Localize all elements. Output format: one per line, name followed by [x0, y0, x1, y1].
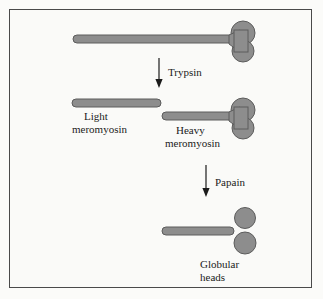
- papain-label: Papain: [215, 176, 245, 188]
- globular-head-lower: [234, 232, 256, 254]
- globular-heads-label-line1: Globular: [200, 258, 239, 270]
- heavy-meromyosin-subfragment-2-rod: [162, 227, 234, 235]
- heavy-meromyosin-rod: [162, 112, 234, 120]
- papain-products-group: Globular heads: [162, 208, 256, 284]
- intact-myosin-molecule: [73, 21, 255, 62]
- papain-arrow-group: Papain: [202, 165, 245, 197]
- light-meromyosin-rod: [72, 99, 161, 107]
- myosin-head-seam: [234, 30, 248, 52]
- trypsin-label: Trypsin: [168, 66, 202, 78]
- heavy-meromyosin-head-seam: [234, 107, 248, 129]
- globular-heads-label-line2: heads: [200, 271, 225, 283]
- heavy-meromyosin-label-line1: Heavy: [176, 124, 205, 136]
- trypsin-arrow-group: Trypsin: [155, 58, 202, 88]
- trypsin-arrow-head-icon: [155, 79, 162, 88]
- globular-head-upper: [235, 208, 256, 229]
- light-meromyosin-label-line1: Light: [84, 110, 108, 122]
- papain-arrow-head-icon: [202, 188, 209, 197]
- figure-root: Trypsin Light meromyosin Heavy meromyosi…: [0, 0, 323, 299]
- heavy-meromyosin-molecule: Heavy meromyosin: [162, 98, 255, 149]
- myosin-tail-rod: [73, 35, 233, 43]
- light-meromyosin-label-line2: meromyosin: [72, 123, 127, 135]
- myosin-cleavage-diagram: Trypsin Light meromyosin Heavy meromyosi…: [0, 0, 323, 299]
- light-meromyosin-molecule: Light meromyosin: [72, 99, 161, 135]
- heavy-meromyosin-label-line2: meromyosin: [165, 137, 220, 149]
